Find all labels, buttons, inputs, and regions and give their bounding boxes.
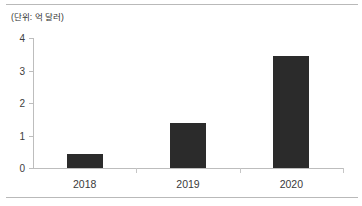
unit-note: (단위: 억 달러) <box>11 12 64 23</box>
bar-2019 <box>170 123 206 169</box>
x-axis-line <box>33 168 343 169</box>
x-separator <box>240 168 241 173</box>
y-axis-line <box>33 38 34 168</box>
bottom-divider <box>6 197 358 198</box>
plot-area: 01234 201820192020 <box>33 38 343 168</box>
y-tick-label: 4 <box>19 34 25 44</box>
y-tick-label: 2 <box>19 99 25 109</box>
bar-2020 <box>273 56 309 168</box>
x-label-2018: 2018 <box>73 178 96 190</box>
bar-chart-figure: (단위: 억 달러) 01234 201820192020 <box>0 0 362 206</box>
top-divider <box>6 4 358 5</box>
y-tick-3: 3 <box>29 71 33 72</box>
y-tick-4: 4 <box>29 38 33 39</box>
y-tick-label: 3 <box>19 67 25 77</box>
x-label-2020: 2020 <box>280 178 303 190</box>
y-tick-1: 1 <box>29 136 33 137</box>
bar-2018 <box>67 154 103 168</box>
x-separator <box>136 168 137 173</box>
x-separator <box>343 168 344 173</box>
y-tick-label: 0 <box>19 164 25 174</box>
x-label-2019: 2019 <box>176 178 199 190</box>
y-tick-0: 0 <box>29 168 33 169</box>
y-tick-label: 1 <box>19 132 25 142</box>
y-tick-2: 2 <box>29 103 33 104</box>
